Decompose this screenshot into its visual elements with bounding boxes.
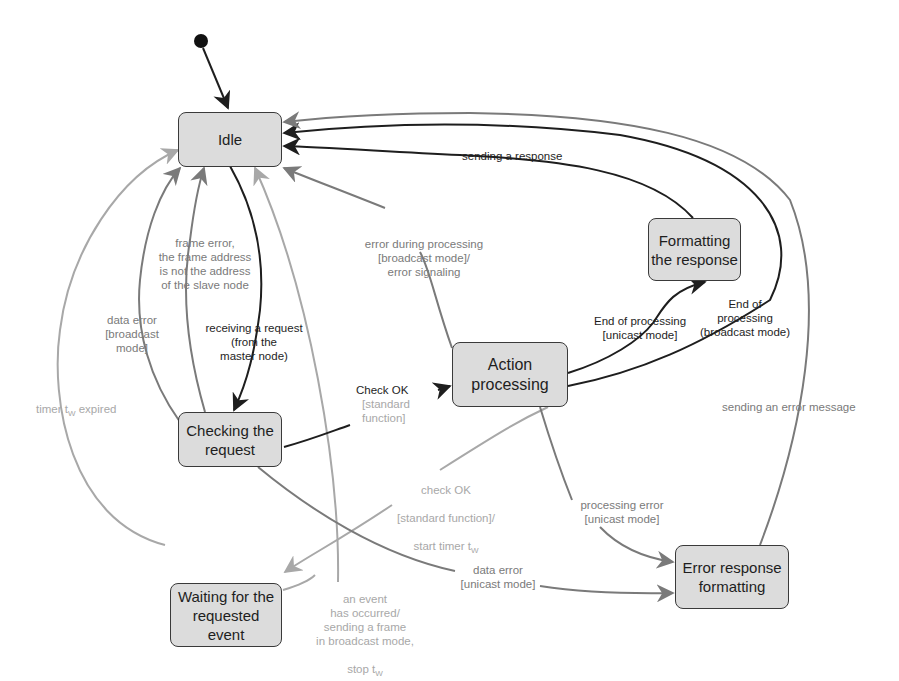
- edge-action-to-error-processing: [540, 407, 673, 562]
- state-action-processing[interactable]: Action processing: [452, 342, 568, 407]
- label-processing-error-unicast: processing error [unicast mode]: [572, 498, 672, 526]
- label-check-ok-timer-line1: check OK: [386, 483, 506, 497]
- edge-checking-to-idle-data-error: [139, 168, 180, 422]
- label-check-ok: Check OK: [356, 383, 408, 397]
- label-timer-expired: timer tW expired: [36, 388, 116, 421]
- label-error-during-processing: error during processing [broadcast mode]…: [356, 237, 492, 279]
- state-error-response-formatting[interactable]: Error response formatting: [675, 545, 789, 609]
- label-frame-error: frame error, the frame address is not th…: [150, 236, 260, 292]
- label-event-stop: stop tW: [310, 662, 420, 681]
- edge-waiting-to-idle-event: [255, 168, 338, 590]
- label-end-of-processing-unicast: End of processing [unicast mode]: [585, 314, 695, 342]
- state-formatting-the-response[interactable]: Formatting the response: [648, 218, 741, 281]
- initial-state-icon: [194, 34, 208, 48]
- state-idle-label: Idle: [218, 130, 242, 149]
- state-formatting-label: Formatting the response: [651, 231, 738, 269]
- label-data-error-broadcast: data error [broadcast mode]: [102, 313, 162, 355]
- label-start-timer-prefix: start timer t: [413, 540, 471, 552]
- state-checking-the-request[interactable]: Checking the request: [178, 412, 282, 467]
- label-event-occurred-lines: an event has occurred/ sending a frame i…: [310, 592, 420, 648]
- state-action-label: Action processing: [471, 355, 548, 395]
- state-idle[interactable]: Idle: [178, 112, 282, 167]
- label-check-ok-timer-line3: start timer tW: [386, 539, 506, 558]
- state-error-response-label: Error response formatting: [682, 558, 781, 596]
- label-check-ok-timer-line2: [standard function]/: [386, 511, 506, 525]
- state-waiting-label: Waiting for the requested event: [178, 587, 274, 644]
- label-sending-an-error-message: sending an error message: [722, 400, 856, 414]
- label-start-timer-sub: W: [471, 546, 479, 555]
- label-data-error-unicast: data error [unicast mode]: [456, 563, 540, 591]
- label-timer-suffix: expired: [76, 403, 117, 415]
- label-receiving-a-request: receiving a request (from the master nod…: [194, 321, 314, 363]
- edge-initial-to-idle: [203, 48, 228, 108]
- state-checking-label: Checking the request: [186, 421, 274, 459]
- label-timer-sub: W: [68, 409, 76, 418]
- label-end-of-processing-broadcast: End of processing (broadcast mode): [695, 297, 795, 339]
- label-stop-prefix: stop t: [347, 663, 375, 675]
- label-event-occurred: an event has occurred/ sending a frame i…: [310, 578, 420, 681]
- state-waiting-for-requested-event[interactable]: Waiting for the requested event: [170, 583, 282, 647]
- label-timer-prefix: timer t: [36, 403, 68, 415]
- label-check-ok-guard: [standard function]: [362, 397, 410, 425]
- label-sending-a-response: sending a response: [462, 149, 562, 163]
- label-check-ok-start-timer: check OK [standard function]/ start time…: [386, 469, 506, 572]
- label-stop-sub: W: [375, 669, 383, 678]
